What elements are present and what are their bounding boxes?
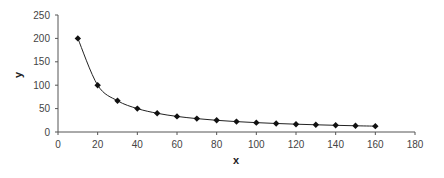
diamond-marker [75,35,81,41]
y-tick-label: 250 [33,10,50,21]
x-tick-label: 40 [132,139,144,150]
diamond-marker [313,122,319,128]
y-tick-label: 100 [33,80,50,91]
x-tick-label: 20 [92,139,104,150]
y-tick-label: 0 [44,127,50,138]
x-tick-label: 140 [327,139,344,150]
x-tick-label: 160 [367,139,384,150]
diamond-marker [253,119,259,125]
diamond-marker [273,120,279,126]
diamond-marker [233,118,239,124]
diamond-marker [352,123,358,129]
diamond-marker [114,98,120,104]
x-axis-title: x [233,154,240,166]
y-tick-label: 50 [39,103,51,114]
x-axis: 020406080100120140160180 [55,132,424,150]
y-tick-label: 200 [33,33,50,44]
diamond-marker [154,110,160,116]
x-tick-label: 80 [211,139,223,150]
series-line [78,38,376,126]
data-markers [75,35,379,129]
y-axis-title: y [12,71,24,78]
diamond-marker [293,121,299,127]
diamond-marker [174,113,180,119]
x-tick-label: 180 [407,139,424,150]
x-tick-label: 60 [171,139,183,150]
x-tick-label: 100 [248,139,265,150]
diamond-marker [372,123,378,129]
x-tick-label: 0 [55,139,61,150]
diamond-marker [213,117,219,123]
line-chart: 050100150200250 020406080100120140160180… [0,0,444,178]
diamond-marker [134,105,140,111]
diamond-marker [194,115,200,121]
y-axis: 050100150200250 [33,10,58,138]
y-tick-label: 150 [33,56,50,67]
diamond-marker [94,82,100,88]
x-tick-label: 120 [288,139,305,150]
diamond-marker [332,122,338,128]
